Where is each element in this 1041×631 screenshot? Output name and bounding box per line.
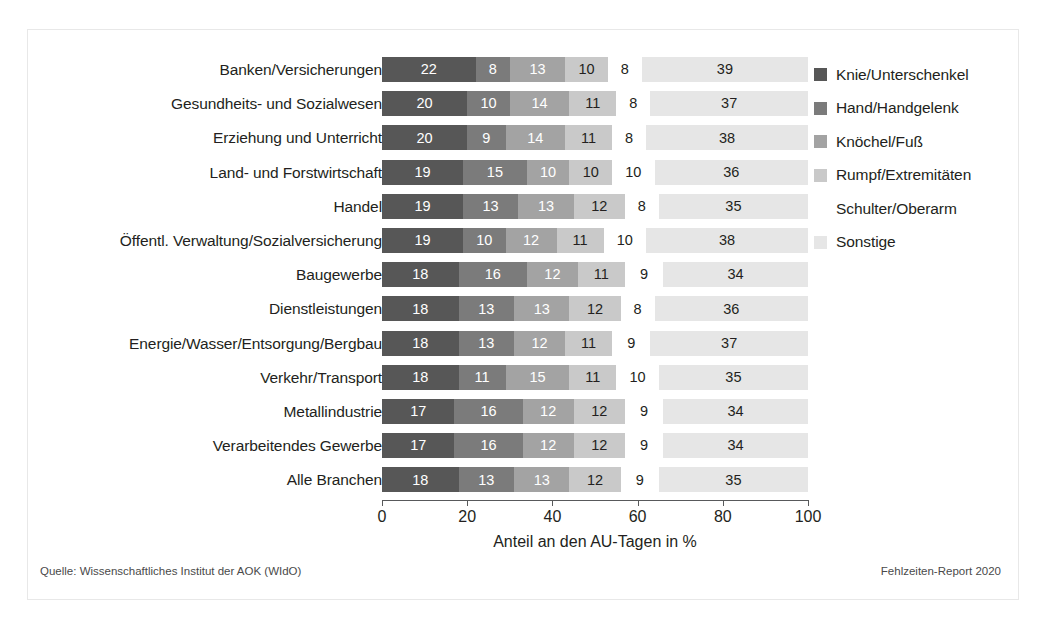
chart-row: Dienstleistungen18131312836 (0, 296, 1041, 321)
chart-legend: Knie/UnterschenkelHand/HandgelenkKnöchel… (814, 58, 1029, 259)
x-tick-mark (382, 500, 383, 506)
segment-value: 8 (625, 131, 633, 146)
bar-segment: 12 (523, 399, 574, 424)
bar-segment: 8 (625, 194, 659, 219)
segment-value: 11 (585, 370, 600, 385)
stacked-bar: 191012111038 (382, 228, 808, 253)
segment-value: 18 (412, 302, 428, 317)
segment-value: 18 (412, 267, 428, 282)
segment-value: 11 (581, 131, 596, 146)
segment-value: 16 (485, 267, 501, 282)
bar-segment: 15 (463, 160, 527, 185)
x-tick-label: 60 (629, 508, 647, 526)
category-label: Dienstleistungen (269, 296, 382, 321)
segment-value: 12 (587, 302, 603, 317)
bar-segment: 18 (382, 467, 459, 492)
segment-value: 9 (640, 404, 648, 419)
bar-segment: 37 (650, 91, 808, 116)
segment-value: 38 (719, 131, 735, 146)
bar-segment: 10 (463, 228, 506, 253)
stacked-bar: 18131211937 (382, 331, 808, 356)
segment-value: 12 (532, 336, 548, 351)
bar-segment: 10 (569, 160, 612, 185)
segment-value: 12 (591, 438, 607, 453)
segment-value: 13 (534, 473, 550, 488)
segment-value: 10 (540, 165, 556, 180)
bar-segment: 8 (612, 125, 646, 150)
segment-value: 19 (414, 165, 430, 180)
bar-segment: 16 (454, 433, 522, 458)
chart-row: Alle Branchen18131312935 (0, 467, 1041, 492)
x-tick-label: 80 (714, 508, 732, 526)
bar-segment: 9 (625, 262, 663, 287)
segment-value: 37 (721, 336, 737, 351)
segment-value: 9 (482, 131, 490, 146)
segment-value: 10 (480, 96, 496, 111)
stacked-bar: 191510101036 (382, 160, 808, 185)
x-tick-mark (638, 500, 639, 506)
segment-value: 13 (534, 302, 550, 317)
stacked-bar: 19131312835 (382, 194, 808, 219)
category-label: Gesundheits- und Sozialwesen (171, 91, 382, 116)
bar-segment: 13 (459, 467, 514, 492)
segment-value: 13 (483, 199, 499, 214)
bar-segment: 10 (527, 160, 570, 185)
legend-swatch-icon (814, 202, 827, 215)
bar-segment: 36 (655, 296, 808, 321)
bar-segment: 16 (459, 262, 527, 287)
x-axis-label: Anteil an den AU-Tagen in % (382, 533, 808, 551)
legend-swatch-icon (814, 68, 827, 81)
bar-segment: 8 (621, 296, 655, 321)
category-label: Banken/Versicherungen (220, 57, 383, 82)
bar-segment: 9 (612, 331, 650, 356)
bar-segment: 38 (646, 125, 808, 150)
legend-swatch-icon (814, 135, 827, 148)
segment-value: 35 (725, 199, 741, 214)
chart-row: Metallindustrie17161212934 (0, 399, 1041, 424)
segment-value: 15 (529, 370, 545, 385)
legend-item[interactable]: Hand/Handgelenk (814, 92, 1029, 126)
bar-segment: 8 (616, 91, 650, 116)
bar-segment: 9 (625, 399, 663, 424)
stacked-bar: 2281310839 (382, 57, 808, 82)
bar-segment: 34 (663, 399, 808, 424)
segment-value: 8 (638, 199, 646, 214)
segment-value: 12 (523, 233, 539, 248)
bar-segment: 10 (565, 57, 608, 82)
legend-item[interactable]: Rumpf/Extremitäten (814, 159, 1029, 193)
bar-segment: 8 (476, 57, 510, 82)
bar-segment: 17 (382, 399, 454, 424)
segment-value: 12 (591, 404, 607, 419)
bar-segment: 18 (382, 262, 459, 287)
legend-item[interactable]: Knöchel/Fuß (814, 125, 1029, 159)
segment-value: 19 (414, 233, 430, 248)
bar-segment: 12 (569, 467, 620, 492)
segment-value: 8 (634, 302, 642, 317)
legend-item[interactable]: Sonstige (814, 226, 1029, 260)
legend-label: Hand/Handgelenk (836, 99, 959, 117)
stacked-bar: 20101411837 (382, 91, 808, 116)
segment-value: 13 (478, 336, 494, 351)
bar-segment: 11 (569, 91, 616, 116)
segment-value: 18 (412, 336, 428, 351)
bar-segment: 12 (514, 331, 565, 356)
bar-segment: 11 (557, 228, 604, 253)
segment-value: 34 (728, 267, 744, 282)
bar-segment: 13 (514, 467, 569, 492)
segment-value: 11 (581, 336, 596, 351)
legend-swatch-icon (814, 169, 827, 182)
legend-item[interactable]: Knie/Unterschenkel (814, 58, 1029, 92)
segment-value: 14 (527, 131, 543, 146)
bar-segment: 20 (382, 91, 467, 116)
bar-segment: 18 (382, 331, 459, 356)
legend-item[interactable]: Schulter/Oberarm (814, 192, 1029, 226)
bar-segment: 18 (382, 296, 459, 321)
stacked-bar: 18161211934 (382, 262, 808, 287)
chart-row: Verarbeitendes Gewerbe17161212934 (0, 433, 1041, 458)
stacked-bar: 2091411838 (382, 125, 808, 150)
bar-segment: 8 (608, 57, 642, 82)
category-label: Verkehr/Transport (260, 365, 382, 390)
segment-value: 20 (417, 131, 433, 146)
bar-segment: 14 (510, 91, 570, 116)
category-label: Baugewerbe (296, 262, 382, 287)
